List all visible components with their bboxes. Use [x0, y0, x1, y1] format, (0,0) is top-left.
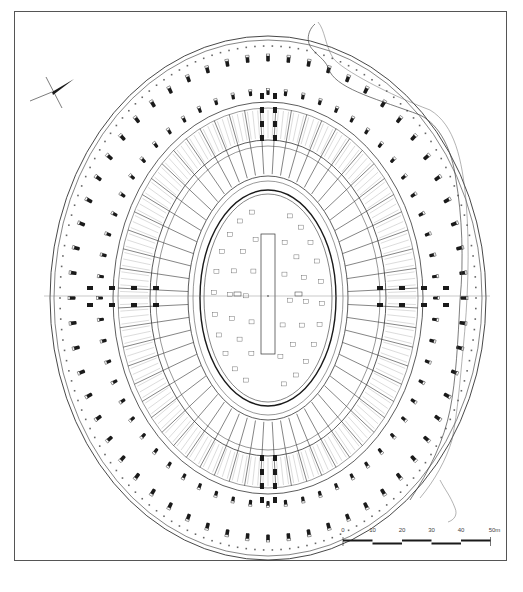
north-arrow-icon — [30, 77, 74, 108]
scale-bar-graphic — [343, 537, 491, 546]
amphitheater — [44, 36, 490, 560]
scale-tick-label: 50m — [489, 527, 501, 533]
scale-tick-label: 40 — [458, 527, 465, 533]
arena-wall — [200, 190, 336, 406]
amphitheater-plan — [0, 0, 523, 592]
scale-tick-label: 30 — [428, 527, 435, 533]
scale-tick-label: 0 — [341, 527, 344, 533]
scale-tick-label: 20 — [399, 527, 406, 533]
scale-tick-label: 10 — [369, 527, 376, 533]
